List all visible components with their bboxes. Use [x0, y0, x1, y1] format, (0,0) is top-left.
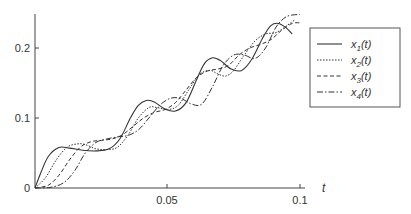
legend: x1(t) x2(t) x3(t) x4(t): [310, 28, 400, 107]
x-tick-label: 0.05: [156, 194, 177, 206]
y-tick-label: 0.1: [15, 112, 30, 124]
series-group: [35, 14, 300, 188]
x-tick-label: 0.1: [292, 194, 307, 206]
series-x4-line: [35, 14, 300, 188]
series-x1-line: [35, 23, 292, 188]
x-axis-label: t: [322, 181, 326, 195]
line-chart: 0.2 0.1 0 0.05 0.1 t x1(t) x2(t) x3(t) x…: [0, 0, 411, 214]
series-x3-line: [35, 23, 300, 188]
y-tick-label: 0: [24, 182, 30, 194]
y-tick-label: 0.2: [15, 42, 30, 54]
series-x2-line: [35, 20, 295, 188]
